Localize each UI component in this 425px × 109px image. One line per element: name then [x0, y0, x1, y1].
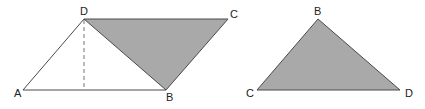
label-d: D — [80, 5, 88, 17]
shaded-triangle-bcd — [257, 19, 400, 90]
label-b-right: B — [314, 5, 321, 17]
label-a: A — [14, 87, 22, 99]
triangle-bcd: B C D — [246, 5, 413, 99]
label-c: C — [230, 8, 238, 20]
label-d-right: D — [405, 87, 413, 99]
geometry-diagram: A B C D B C D — [0, 0, 425, 109]
parallelogram-abcd: A B C D — [14, 5, 238, 103]
label-b: B — [166, 91, 173, 103]
label-c-right: C — [246, 87, 254, 99]
shaded-triangle-dbc — [84, 19, 228, 90]
